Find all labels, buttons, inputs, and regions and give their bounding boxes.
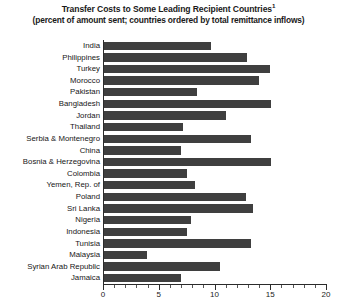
chart-title-text: Transfer Costs to Some Leading Recipient… — [62, 4, 272, 14]
x-tick-label: 20 — [322, 290, 331, 299]
bar — [104, 193, 246, 201]
bar — [104, 216, 191, 224]
plot-area: IndiaPhilippinesTurkeyMoroccoPakistanBan… — [103, 40, 326, 284]
category-label: Indonesia — [66, 226, 100, 238]
bar — [104, 123, 183, 131]
category-label: China — [80, 145, 100, 157]
x-tick-minor — [125, 285, 126, 288]
bar — [104, 169, 187, 177]
chart-subtitle: (percent of amount sent; countries order… — [0, 15, 337, 26]
category-label: Pakistan — [70, 86, 100, 98]
bar-row: China — [103, 145, 326, 157]
bar-row: Malaysia — [103, 249, 326, 261]
category-label: India — [83, 40, 100, 52]
bar — [104, 262, 220, 270]
x-tick-minor — [114, 285, 115, 288]
x-tick-minor — [315, 285, 316, 288]
bar-row: Philippines — [103, 52, 326, 64]
category-label: Colombia — [67, 168, 100, 180]
bar — [104, 158, 271, 166]
bar — [104, 274, 181, 282]
category-label: Turkey — [76, 63, 100, 75]
bar — [104, 228, 187, 236]
category-label: Bangladesh — [59, 98, 100, 110]
category-label: Nigeria — [75, 214, 100, 226]
x-tick-label: 15 — [266, 290, 275, 299]
bar — [104, 135, 251, 143]
bar — [104, 204, 253, 212]
x-tick-minor — [248, 285, 249, 288]
bar-row: India — [103, 40, 326, 52]
bar — [104, 42, 211, 50]
category-label: Tunisia — [75, 238, 100, 250]
bar — [104, 65, 270, 73]
bar-row: Jamaica — [103, 272, 326, 284]
category-label: Bosnia & Herzegovina — [23, 156, 100, 168]
bar — [104, 76, 259, 84]
category-label: Jamaica — [71, 272, 100, 284]
chart-title: Transfer Costs to Some Leading Recipient… — [0, 4, 337, 15]
category-label: Philippines — [62, 52, 100, 64]
bar-row: Thailand — [103, 121, 326, 133]
bar-row: Bangladesh — [103, 98, 326, 110]
bar-row: Morocco — [103, 75, 326, 87]
bar-row: Yemen, Rep. of — [103, 179, 326, 191]
bar-row: Poland — [103, 191, 326, 203]
bar — [104, 146, 181, 154]
x-tick-minor — [259, 285, 260, 288]
category-label: Sri Lanka — [67, 203, 100, 215]
x-tick-minor — [304, 285, 305, 288]
x-tick-minor — [293, 285, 294, 288]
bar-row: Tunisia — [103, 238, 326, 250]
x-tick-minor — [192, 285, 193, 288]
x-tick-minor — [226, 285, 227, 288]
x-tick-minor — [203, 285, 204, 288]
bar-row: Indonesia — [103, 226, 326, 238]
bar-row: Sri Lanka — [103, 203, 326, 215]
x-tick-minor — [136, 285, 137, 288]
category-label: Thailand — [70, 121, 100, 133]
chart-figure: Transfer Costs to Some Leading Recipient… — [0, 0, 337, 307]
x-tick-minor — [181, 285, 182, 288]
chart-title-block: Transfer Costs to Some Leading Recipient… — [0, 4, 337, 26]
x-tick-minor — [281, 285, 282, 288]
chart-title-footnote-marker: 1 — [272, 2, 275, 9]
x-tick-minor — [237, 285, 238, 288]
bar — [104, 100, 271, 108]
category-label: Yemen, Rep. of — [47, 179, 100, 191]
bar-row: Jordan — [103, 110, 326, 122]
bar-row: Syrian Arab Republic — [103, 261, 326, 273]
bar — [104, 53, 247, 61]
category-label: Serbia & Montenegro — [26, 133, 100, 145]
bar — [104, 251, 147, 259]
bar-row: Bosnia & Herzegovina — [103, 156, 326, 168]
category-label: Malaysia — [69, 249, 100, 261]
bar — [104, 88, 197, 96]
bar-row: Pakistan — [103, 86, 326, 98]
category-label: Syrian Arab Republic — [27, 261, 100, 273]
x-tick-label: 10 — [210, 290, 219, 299]
bar — [104, 181, 195, 189]
x-tick-minor — [170, 285, 171, 288]
bar-row: Turkey — [103, 63, 326, 75]
bar-row: Nigeria — [103, 214, 326, 226]
category-label: Jordan — [76, 110, 100, 122]
category-label: Poland — [76, 191, 100, 203]
category-label: Morocco — [70, 75, 100, 87]
bar — [104, 239, 251, 247]
bar-row: Colombia — [103, 168, 326, 180]
x-tick-label: 0 — [101, 290, 105, 299]
bar-row: Serbia & Montenegro — [103, 133, 326, 145]
x-tick-minor — [148, 285, 149, 288]
x-tick-label: 5 — [157, 290, 161, 299]
bar — [104, 111, 226, 119]
